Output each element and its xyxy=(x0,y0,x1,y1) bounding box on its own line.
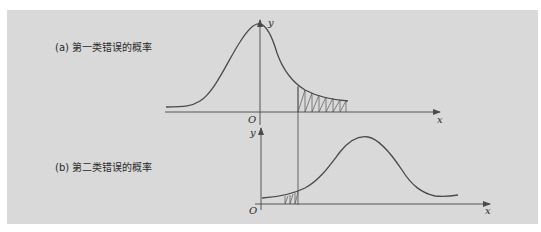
panel-a-axes xyxy=(165,20,440,125)
panel-b-x-label: x xyxy=(485,205,491,216)
panel-b-caption: (b) 第二类错误的概率 xyxy=(55,159,152,174)
panel-b-origin-label: O xyxy=(249,205,257,216)
panel-a-origin-label: O xyxy=(248,114,256,125)
panel-a-caption: (a) 第一类错误的概率 xyxy=(55,39,152,54)
panel-b-density-curve xyxy=(262,137,458,198)
panel-a-x-label: x xyxy=(437,114,443,125)
distribution-diagram xyxy=(0,0,541,232)
panel-a-y-label: y xyxy=(268,17,274,28)
panel-a-density-curve xyxy=(166,24,348,107)
panel-b-y-label: y xyxy=(250,127,256,138)
